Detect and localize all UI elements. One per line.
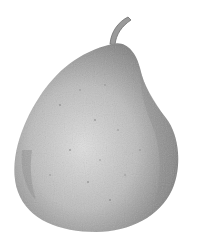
pear-image: [0, 0, 201, 247]
stem: [110, 17, 131, 45]
pear-illustration: [0, 0, 201, 247]
